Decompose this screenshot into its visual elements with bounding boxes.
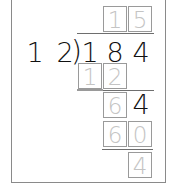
final-remainder-box[interactable]: 4 [128, 152, 152, 178]
brought-down-digit: 4 [131, 90, 151, 120]
divisor-digit-1: 1 [25, 38, 45, 68]
quotient-digit-box-1[interactable]: 1 [103, 6, 127, 32]
subtraction-line-2 [102, 149, 153, 150]
first-remainder-box[interactable]: 6 [103, 92, 127, 118]
dividend-digit-3: 4 [131, 38, 151, 68]
quotient-digit-box-2[interactable]: 5 [128, 6, 152, 32]
second-product-box-2[interactable]: 0 [128, 121, 152, 147]
first-product-box-2[interactable]: 2 [103, 63, 127, 89]
division-bar [77, 33, 154, 34]
subtraction-line-1a [77, 89, 103, 91]
first-product-box-1[interactable]: 1 [78, 63, 102, 89]
second-product-box-1[interactable]: 6 [103, 121, 127, 147]
